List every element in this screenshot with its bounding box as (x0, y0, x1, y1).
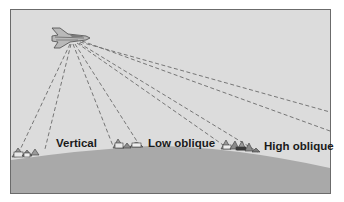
label-high-oblique: High oblique (264, 141, 334, 153)
aerial-photography-diagram (0, 0, 344, 202)
label-low-oblique: Low oblique (148, 138, 215, 150)
label-vertical: Vertical (56, 138, 97, 150)
